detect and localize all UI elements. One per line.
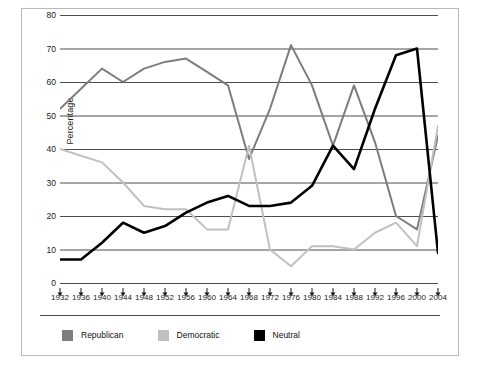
legend-item[interactable]: Neutral bbox=[254, 330, 300, 341]
y-tick-label: 10 bbox=[32, 245, 56, 255]
y-tick-label: 50 bbox=[32, 111, 56, 121]
x-tick-label: 1952 bbox=[156, 293, 174, 302]
x-tick-mark bbox=[330, 283, 337, 292]
series-line-democratic bbox=[60, 126, 438, 267]
x-tick-label: 2000 bbox=[408, 293, 426, 302]
legend-item[interactable]: Democratic bbox=[158, 330, 220, 341]
x-tick-label: 1936 bbox=[72, 293, 90, 302]
x-tick-label: 1944 bbox=[114, 293, 132, 302]
y-tick-label: 40 bbox=[32, 144, 56, 154]
x-tick-mark bbox=[78, 283, 85, 292]
x-tick-label: 1984 bbox=[324, 293, 342, 302]
x-tick-label: 1972 bbox=[261, 293, 279, 302]
legend-label: Neutral bbox=[273, 330, 300, 340]
chart-svg bbox=[60, 15, 438, 283]
y-tick-label: 80 bbox=[32, 10, 56, 20]
series-line-republican bbox=[60, 45, 438, 229]
x-tick-mark bbox=[372, 283, 379, 292]
chart-legend: RepublicanDemocraticNeutral bbox=[62, 327, 334, 343]
x-tick-mark bbox=[309, 283, 316, 292]
x-tick-label: 1948 bbox=[135, 293, 153, 302]
legend-item[interactable]: Republican bbox=[62, 330, 124, 341]
x-tick-mark bbox=[183, 283, 190, 292]
legend-divider bbox=[40, 315, 440, 316]
x-tick-mark bbox=[57, 283, 64, 292]
y-tick-label: 0 bbox=[32, 278, 56, 288]
x-tick-mark bbox=[99, 283, 106, 292]
legend-swatch bbox=[158, 330, 169, 341]
legend-swatch bbox=[254, 330, 265, 341]
legend-label: Republican bbox=[81, 330, 124, 340]
x-tick-label: 1940 bbox=[93, 293, 111, 302]
y-tick-label: 20 bbox=[32, 211, 56, 221]
x-tick-label: 1980 bbox=[303, 293, 321, 302]
y-tick-label: 60 bbox=[32, 77, 56, 87]
x-tick-label: 2004 bbox=[429, 293, 447, 302]
x-axis-line bbox=[60, 283, 438, 293]
x-tick-mark bbox=[414, 283, 421, 292]
x-tick-label: 1988 bbox=[345, 293, 363, 302]
legend-label: Democratic bbox=[177, 330, 220, 340]
x-tick-label: 1996 bbox=[387, 293, 405, 302]
y-axis-tick-labels: 01020304050607080 bbox=[30, 15, 56, 283]
x-tick-label: 1976 bbox=[282, 293, 300, 302]
y-tick-label: 70 bbox=[32, 44, 56, 54]
series-line-neutral bbox=[60, 49, 438, 260]
x-tick-label: 1956 bbox=[177, 293, 195, 302]
x-tick-mark bbox=[267, 283, 274, 292]
x-tick-label: 1964 bbox=[219, 293, 237, 302]
plot-area bbox=[60, 15, 438, 283]
x-tick-label: 1968 bbox=[240, 293, 258, 302]
x-tick-label: 1960 bbox=[198, 293, 216, 302]
x-tick-mark bbox=[141, 283, 148, 292]
x-tick-label: 1932 bbox=[51, 293, 69, 302]
x-tick-mark bbox=[120, 283, 127, 292]
series-canvas bbox=[60, 15, 438, 283]
x-tick-label: 1992 bbox=[366, 293, 384, 302]
legend-swatch bbox=[62, 330, 73, 341]
x-tick-mark bbox=[204, 283, 211, 292]
x-tick-mark bbox=[225, 283, 232, 292]
x-tick-mark bbox=[435, 283, 442, 292]
x-tick-mark bbox=[246, 283, 253, 292]
y-tick-label: 30 bbox=[32, 178, 56, 188]
x-tick-mark bbox=[162, 283, 169, 292]
x-tick-mark bbox=[288, 283, 295, 292]
x-tick-mark bbox=[351, 283, 358, 292]
chart-figure: Percentage 01020304050607080 19321936194… bbox=[21, 8, 459, 356]
x-axis-tick-labels: 1932193619401944194819521956196019641968… bbox=[42, 293, 472, 307]
x-tick-mark bbox=[393, 283, 400, 292]
